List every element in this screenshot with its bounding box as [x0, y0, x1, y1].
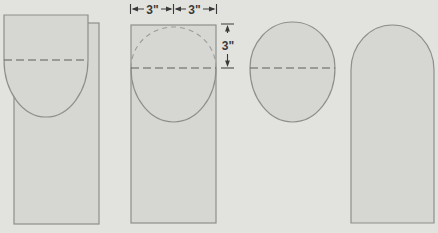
- arrow-left-icon: [132, 7, 139, 12]
- dimension-width: 3" 3": [131, 3, 217, 17]
- figure-step1: [4, 15, 99, 224]
- step2-board: [131, 25, 216, 223]
- figure-step4: [351, 25, 434, 223]
- dim-width-right-label: 3": [188, 3, 200, 17]
- step3-oval: [250, 22, 335, 122]
- arrow-left-icon: [175, 7, 182, 12]
- figure-step3: [250, 22, 335, 122]
- arrow-right-icon: [209, 7, 216, 12]
- step4-rounded-top-board: [351, 25, 434, 223]
- arrow-down-icon: [225, 61, 230, 68]
- diagram-canvas: 3" 3" 3": [0, 0, 438, 233]
- figure-step2: [131, 25, 216, 223]
- layout-diagram: 3" 3" 3": [0, 0, 438, 233]
- dim-height-label: 3": [222, 39, 234, 53]
- dimension-height: 3": [221, 24, 234, 68]
- arrow-right-icon: [166, 7, 173, 12]
- arrow-up-icon: [225, 25, 230, 32]
- dim-width-left-label: 3": [146, 3, 158, 17]
